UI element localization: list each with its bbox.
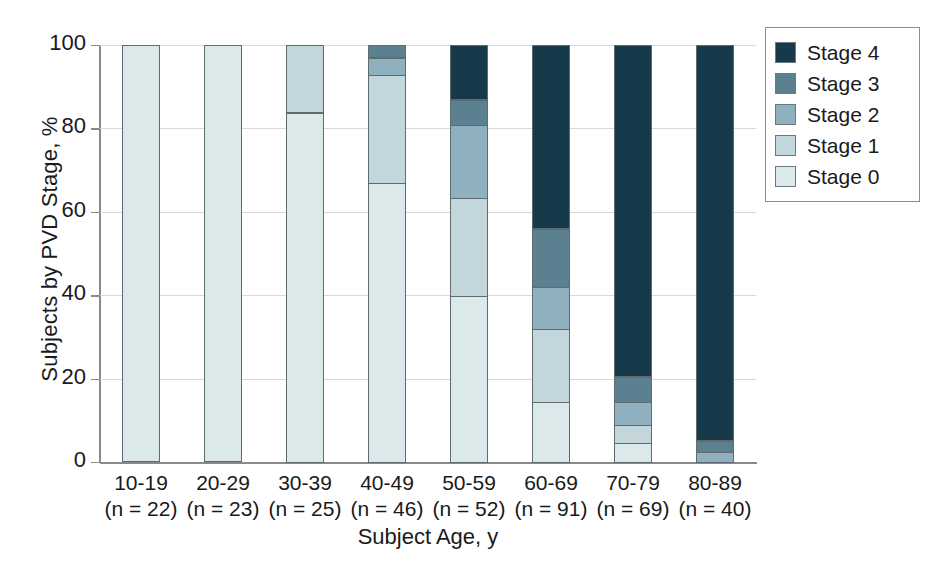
bar-stack[interactable] bbox=[614, 45, 652, 462]
x-tick-age-range: 10-19 bbox=[99, 470, 183, 496]
x-tick-group: 50-59(n = 52) bbox=[427, 470, 511, 522]
bar-segment[interactable] bbox=[204, 45, 242, 462]
legend-color-swatch bbox=[775, 104, 796, 125]
bar-stack[interactable] bbox=[368, 45, 406, 462]
bar-stack[interactable] bbox=[286, 45, 324, 462]
legend-item[interactable]: Stage 3 bbox=[775, 68, 909, 99]
x-tick-sample-size: (n = 91) bbox=[509, 496, 593, 522]
x-tick-age-range: 40-49 bbox=[345, 470, 429, 496]
bar-segment[interactable] bbox=[368, 183, 406, 463]
bar-stack[interactable] bbox=[122, 45, 160, 462]
bar-segment[interactable] bbox=[450, 45, 488, 100]
legend-color-swatch bbox=[775, 73, 796, 94]
x-tick-sample-size: (n = 52) bbox=[427, 496, 511, 522]
x-tick-age-range: 80-89 bbox=[673, 470, 757, 496]
x-tick-sample-size: (n = 22) bbox=[99, 496, 183, 522]
gridline bbox=[100, 212, 756, 213]
gridline bbox=[100, 295, 756, 296]
bar-segment[interactable] bbox=[532, 229, 570, 288]
y-tick-label: 60 bbox=[26, 197, 86, 223]
y-tick-mark bbox=[91, 462, 100, 463]
legend-color-swatch bbox=[775, 166, 796, 187]
y-tick-label: 20 bbox=[26, 364, 86, 390]
y-tick-label: 40 bbox=[26, 280, 86, 306]
chart-legend: Stage 4Stage 3Stage 2Stage 1Stage 0 bbox=[765, 27, 920, 202]
bar-stack[interactable] bbox=[696, 45, 734, 462]
x-tick-sample-size: (n = 25) bbox=[263, 496, 347, 522]
legend-color-swatch bbox=[775, 135, 796, 156]
y-tick-label: 80 bbox=[26, 113, 86, 139]
bar-segment[interactable] bbox=[696, 452, 734, 463]
legend-label: Stage 3 bbox=[807, 72, 879, 96]
x-tick-group: 30-39(n = 25) bbox=[263, 470, 347, 522]
bar-segment[interactable] bbox=[696, 45, 734, 441]
legend-label: Stage 2 bbox=[807, 103, 879, 127]
x-tick-age-range: 30-39 bbox=[263, 470, 347, 496]
bar-segment[interactable] bbox=[614, 45, 652, 377]
gridline bbox=[100, 45, 756, 46]
bar-segment[interactable] bbox=[614, 443, 652, 463]
x-tick-sample-size: (n = 40) bbox=[673, 496, 757, 522]
x-tick-sample-size: (n = 69) bbox=[591, 496, 675, 522]
bar-segment[interactable] bbox=[532, 287, 570, 330]
legend-label: Stage 4 bbox=[807, 41, 879, 65]
bar-stack[interactable] bbox=[450, 45, 488, 462]
bar-segment[interactable] bbox=[286, 45, 324, 113]
bar-segment[interactable] bbox=[614, 402, 652, 426]
x-tick-group: 80-89(n = 40) bbox=[673, 470, 757, 522]
x-tick-group: 10-19(n = 22) bbox=[99, 470, 183, 522]
legend-item[interactable]: Stage 0 bbox=[775, 161, 909, 192]
x-tick-group: 70-79(n = 69) bbox=[591, 470, 675, 522]
bar-segment[interactable] bbox=[122, 45, 160, 462]
x-tick-group: 60-69(n = 91) bbox=[509, 470, 593, 522]
y-tick-mark bbox=[91, 128, 100, 129]
bar-segment[interactable] bbox=[450, 296, 488, 463]
bar-segment[interactable] bbox=[614, 377, 652, 403]
y-tick-mark bbox=[91, 212, 100, 213]
bar-segment[interactable] bbox=[450, 125, 488, 199]
bar-segment[interactable] bbox=[450, 198, 488, 297]
legend-color-swatch bbox=[775, 42, 796, 63]
y-tick-label: 0 bbox=[26, 447, 86, 473]
x-tick-age-range: 20-29 bbox=[181, 470, 265, 496]
bar-segment[interactable] bbox=[286, 113, 324, 463]
x-tick-sample-size: (n = 46) bbox=[345, 496, 429, 522]
x-axis-title: Subject Age, y bbox=[100, 524, 756, 550]
bar-stack[interactable] bbox=[532, 45, 570, 462]
x-tick-sample-size: (n = 23) bbox=[181, 496, 265, 522]
legend-item[interactable]: Stage 1 bbox=[775, 130, 909, 161]
gridline bbox=[100, 379, 756, 380]
bar-segment[interactable] bbox=[450, 100, 488, 126]
bar-segment[interactable] bbox=[532, 402, 570, 463]
legend-label: Stage 1 bbox=[807, 134, 879, 158]
x-axis-line bbox=[100, 462, 757, 464]
bar-segment[interactable] bbox=[368, 58, 406, 76]
legend-label: Stage 0 bbox=[807, 165, 879, 189]
bar-segment[interactable] bbox=[368, 75, 406, 184]
legend-item[interactable]: Stage 4 bbox=[775, 37, 909, 68]
y-tick-label: 100 bbox=[26, 30, 86, 56]
legend-item[interactable]: Stage 2 bbox=[775, 99, 909, 130]
x-tick-age-range: 70-79 bbox=[591, 470, 675, 496]
plot-area bbox=[100, 45, 756, 462]
x-tick-group: 20-29(n = 23) bbox=[181, 470, 265, 522]
y-tick-mark bbox=[91, 45, 100, 46]
bar-segment[interactable] bbox=[532, 329, 570, 403]
gridline bbox=[100, 128, 756, 129]
chart-figure: Subjects by PVD Stage, % 020406080100 10… bbox=[0, 0, 933, 573]
bar-segment[interactable] bbox=[368, 45, 406, 58]
x-tick-age-range: 50-59 bbox=[427, 470, 511, 496]
bar-segment[interactable] bbox=[614, 425, 652, 445]
bar-segment[interactable] bbox=[532, 45, 570, 229]
x-tick-age-range: 60-69 bbox=[509, 470, 593, 496]
x-tick-group: 40-49(n = 46) bbox=[345, 470, 429, 522]
y-tick-mark bbox=[91, 379, 100, 380]
bar-stack[interactable] bbox=[204, 45, 242, 462]
y-tick-mark bbox=[91, 295, 100, 296]
